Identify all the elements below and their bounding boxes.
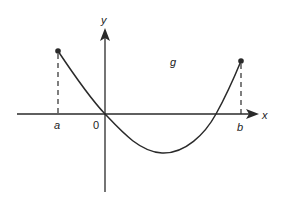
x-axis-label: x — [261, 109, 268, 121]
x-axis — [17, 109, 259, 119]
y-axis-label: y — [100, 14, 108, 26]
endpoint-a-dot — [55, 48, 61, 54]
function-graph-diagram: y x 0 a b g — [0, 0, 281, 205]
left-bound-label: a — [54, 119, 60, 131]
function-label: g — [170, 56, 177, 68]
origin-label: 0 — [93, 119, 99, 131]
endpoint-b-dot — [238, 58, 244, 64]
curve-g — [58, 51, 241, 153]
right-bound-label: b — [237, 121, 243, 133]
